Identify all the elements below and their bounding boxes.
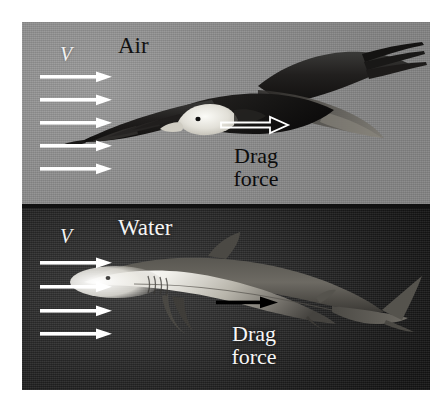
velocity-arrows-air [40,70,126,180]
drag-force-line2: force [200,345,308,368]
panel-water: V Water Drag forc [22,208,430,390]
figure-container: V Air Drag force [22,22,430,390]
drag-arrow-air [220,115,292,135]
velocity-label-air: V [60,44,72,65]
drag-force-line2: force [203,167,309,190]
drag-force-label-water: Drag force [200,322,308,368]
drag-force-line1: Drag [232,321,276,346]
panel-air: V Air Drag force [22,22,430,204]
drag-force-label-air: Drag force [203,144,309,190]
medium-label-air: Air [118,34,149,58]
velocity-arrows-water [40,256,126,348]
velocity-label-water: V [60,226,72,247]
drag-force-line1: Drag [234,143,278,168]
drag-arrow-water [216,294,282,312]
medium-label-water: Water [118,216,172,240]
